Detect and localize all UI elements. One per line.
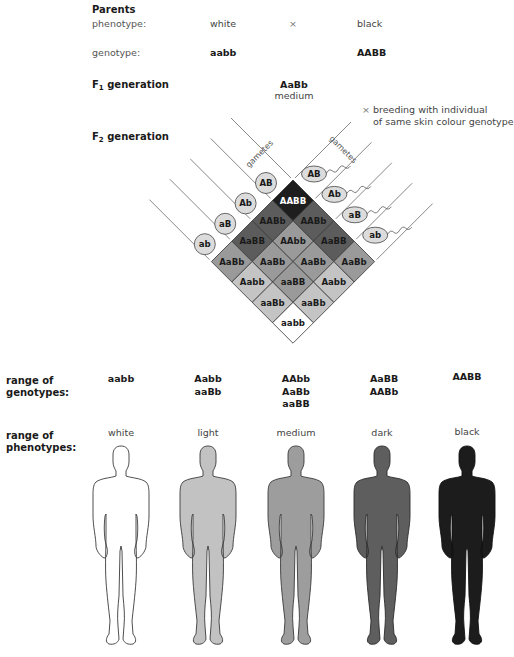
svg-text:ab: ab: [199, 239, 211, 249]
punnett-cell-genotype: AABB: [280, 196, 306, 206]
figure-dark: [354, 446, 410, 644]
figure-light: [180, 446, 236, 644]
punnett-cell-genotype: AaBb: [260, 257, 285, 267]
punnett-cell-genotype: aaBb: [260, 298, 284, 308]
svg-text:AB: AB: [259, 178, 272, 188]
punnett-diamond: gametes gametes AABBAABbAaBBAaBbAABbAAbb…: [0, 0, 509, 360]
svg-text:AB: AB: [307, 169, 320, 179]
punnett-cell-genotype: aabb: [281, 318, 305, 328]
punnett-cell-genotype: AABb: [300, 216, 326, 226]
phenotype-label-light: light: [183, 427, 233, 438]
phenotype-label-medium: medium: [271, 427, 321, 438]
range-genotypes-label: range of genotypes:: [6, 375, 69, 399]
genotype-class-medium: AAbb AaBb aaBB: [276, 373, 316, 411]
punnett-cell-genotype: aaBB: [281, 277, 306, 287]
punnett-cell-genotype: AaBB: [321, 236, 347, 246]
figure-medium: [268, 446, 324, 644]
phenotype-figures: [0, 440, 509, 657]
genotype-class-dark: AaBB AABb: [364, 373, 404, 398]
punnett-cell-genotype: AaBb: [301, 257, 326, 267]
punnett-cell-genotype: AAbb: [280, 236, 306, 246]
figure-white: [93, 446, 149, 644]
punnett-cell-genotype: AABb: [260, 216, 286, 226]
svg-text:Ab: Ab: [239, 198, 252, 208]
svg-text:ab: ab: [369, 230, 381, 240]
svg-text:aB: aB: [349, 210, 361, 220]
phenotype-label-black: black: [442, 426, 492, 437]
punnett-cell-genotype: AaBB: [239, 236, 265, 246]
punnett-cell-genotype: Aabb: [240, 277, 265, 287]
gametes-label-right: gametes: [328, 134, 359, 165]
genotype-class-black: AABB: [447, 371, 487, 384]
phenotype-label-dark: dark: [357, 427, 407, 438]
genotype-class-light: Aabb aaBb: [188, 373, 228, 398]
svg-text:Ab: Ab: [328, 189, 341, 199]
punnett-cell-genotype: AaBb: [219, 257, 244, 267]
punnett-cell-genotype: aaBb: [301, 298, 325, 308]
punnett-cell-genotype: AaBb: [342, 257, 367, 267]
gametes-label-left: gametes: [244, 138, 275, 169]
genotype-class-white: aabb: [101, 373, 141, 386]
punnett-cell-genotype: Aabb: [321, 277, 346, 287]
figure-black: [439, 446, 495, 644]
svg-text:aB: aB: [219, 219, 231, 229]
phenotype-label-white: white: [96, 427, 146, 438]
